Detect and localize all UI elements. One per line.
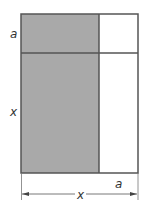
label-a-left: a: [10, 27, 17, 41]
shaded-region: [21, 14, 99, 173]
label-a-bottom: a: [115, 177, 122, 191]
arrow-right-icon: [130, 192, 137, 196]
label-x-bottom: x: [76, 188, 85, 202]
unshaded-region: [99, 14, 138, 173]
label-x-left: x: [9, 105, 18, 119]
area-diagram: a x a x: [0, 0, 146, 208]
arrow-left-icon: [22, 192, 29, 196]
